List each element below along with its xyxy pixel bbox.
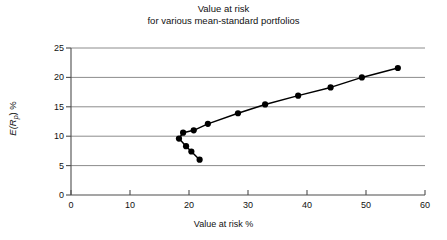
y-axis-tick-label: 20 — [40, 72, 64, 82]
x-axis-tick-label: 10 — [125, 200, 135, 210]
y-axis-tick-label: 5 — [40, 161, 64, 171]
y-axis-label-subscript: p — [12, 115, 19, 119]
x-axis-label: Value at risk % — [0, 219, 447, 229]
y-axis-label-tail: ) % — [7, 101, 18, 115]
x-axis-tick-label: 40 — [302, 200, 312, 210]
x-axis-tick-label: 20 — [184, 200, 194, 210]
gridlines — [71, 48, 425, 166]
x-axis-tick-label: 60 — [420, 200, 430, 210]
data-point — [328, 84, 334, 90]
series-line — [179, 68, 398, 160]
data-point — [176, 135, 182, 141]
data-point — [295, 93, 301, 99]
axis-lines — [71, 48, 425, 195]
data-series-efficient-frontier — [176, 65, 401, 163]
x-axis-tick-label: 30 — [243, 200, 253, 210]
data-point — [395, 65, 401, 71]
data-point — [235, 110, 241, 116]
data-point — [262, 101, 268, 107]
data-point — [197, 157, 203, 163]
y-axis-label: E(Rp) % — [7, 83, 20, 153]
y-axis-tick-label: 15 — [40, 102, 64, 112]
y-axis-ticks — [66, 48, 71, 195]
x-axis-ticks — [71, 190, 425, 195]
y-axis-label-base: E(R — [7, 119, 18, 135]
series-markers — [176, 65, 401, 163]
plot-area — [0, 0, 447, 240]
data-point — [183, 143, 189, 149]
x-axis-tick-label: 50 — [361, 200, 371, 210]
x-axis-tick-label: 0 — [68, 200, 73, 210]
data-point — [205, 121, 211, 127]
data-point — [359, 74, 365, 80]
y-axis-tick-label: 10 — [40, 131, 64, 141]
data-point — [180, 130, 186, 136]
chart-figure: Value at risk for various mean-standard … — [0, 0, 447, 240]
data-point — [188, 148, 194, 154]
y-axis-tick-label: 0 — [40, 190, 64, 200]
data-point — [191, 127, 197, 133]
y-axis-tick-label: 25 — [40, 43, 64, 53]
